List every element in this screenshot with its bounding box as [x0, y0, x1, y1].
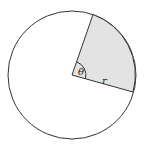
- angle-label: θ: [78, 66, 84, 77]
- circle-sector-diagram: θ r: [0, 0, 144, 147]
